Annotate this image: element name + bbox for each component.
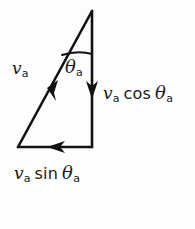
label-angle-theta-a: θa bbox=[65, 58, 83, 78]
vector-decomposition-figure: va θa vacosθa vasinθa bbox=[0, 0, 195, 229]
angle-arc-icon bbox=[62, 52, 92, 55]
label-horizontal-component: vasinθa bbox=[14, 164, 80, 184]
triangle-diagram bbox=[0, 0, 195, 229]
label-vertical-component: vacosθa bbox=[103, 84, 173, 104]
label-hypotenuse-va: va bbox=[12, 60, 29, 79]
